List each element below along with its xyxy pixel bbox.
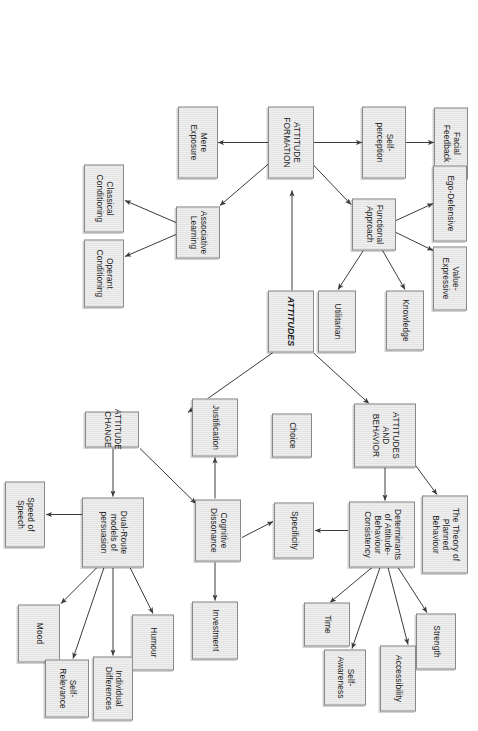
node-investment[interactable]: Investment [192, 601, 238, 659]
node-label: Utilitarian [332, 303, 342, 339]
node-label: Determinants of Attitude- Behaviour Cons… [362, 508, 402, 559]
node-value-expressive[interactable]: Value- Expressive [433, 246, 467, 310]
edge-associative-to-classical [125, 200, 176, 222]
node-determinants[interactable]: Determinants of Attitude- Behaviour Cons… [349, 501, 415, 567]
node-label: Self- Relevance [57, 668, 77, 708]
node-label: Value- Expressive [440, 257, 460, 299]
node-cognitive-dissonance[interactable]: Cognitive Dissonance [195, 499, 241, 561]
node-mood[interactable]: Mood [18, 604, 60, 662]
node-label: Accessibility [393, 655, 403, 702]
node-utilitarian[interactable]: Utilitarian [318, 290, 356, 352]
node-label: Self- perception [374, 122, 394, 162]
node-label: Ego-Defensive [445, 175, 455, 231]
edge-functional-to-utilitarian [338, 249, 364, 289]
node-label: The Theory of Planned Behaviour [430, 507, 460, 560]
edge-determinants-to-strength [398, 567, 427, 612]
node-label: Mere Exposure [188, 124, 208, 160]
node-humour[interactable]: Humour [132, 614, 174, 670]
node-justification[interactable]: Justification [192, 398, 238, 456]
node-label: ATTITUDE CHANGE [102, 408, 122, 449]
node-attitude-change[interactable]: ATTITUDE CHANGE [85, 411, 139, 447]
node-time[interactable]: Time [304, 602, 350, 646]
node-label: Humour [148, 627, 158, 657]
node-ego-defensive[interactable]: Ego-Defensive [433, 165, 467, 241]
node-attitudes[interactable]: ATTITUDES [268, 290, 314, 352]
node-functional-approach[interactable]: Functional Approach [352, 198, 396, 250]
node-self-relevance[interactable]: Self- Relevance [45, 659, 89, 717]
edge-attitudes-to-attitudes-and-behavior [313, 352, 369, 403]
node-strength[interactable]: Strength [416, 613, 456, 669]
node-dual-route[interactable]: Dual-Route models of persuasion [82, 497, 144, 567]
node-label: Functional Approach [364, 204, 384, 244]
node-self-perception[interactable]: Self- perception [362, 106, 406, 178]
node-label: Speed of Speech [15, 497, 35, 531]
node-classical-conditioning[interactable]: Classical Conditioning [84, 164, 124, 232]
edge-change-to-cognitive-dissonance [140, 448, 196, 503]
node-operant-conditioning[interactable]: Operant Conditioning [84, 239, 124, 307]
figure-page: Facial Feedback Ego-Defensive Value- Exp… [0, 0, 478, 731]
node-label: Investment [210, 609, 220, 651]
edge-dualroute-to-humour [130, 567, 153, 613]
node-theory-of-planned-behaviour[interactable]: The Theory of Planned Behaviour [422, 495, 468, 573]
node-label: Justification [210, 404, 220, 449]
edge-formation-to-associative-learning [220, 163, 269, 205]
edge-functional-to-value-expressive [396, 232, 433, 250]
node-label: ATTITUDES [286, 296, 296, 346]
node-label: Time [322, 615, 332, 634]
node-label: Choice [287, 422, 297, 449]
node-label: Operant Conditioning [94, 249, 114, 297]
node-label: Specificity [289, 511, 299, 550]
node-choice-box[interactable]: Choice [272, 413, 312, 457]
edge-dualroute-to-self-relevance [73, 567, 104, 658]
node-label: Facial Feedback [441, 124, 461, 162]
node-label: ATTITUDES AND BEHAVIOR [370, 412, 400, 459]
node-label: Cognitive Dissonance [208, 508, 228, 553]
node-label: Individual Differences [103, 666, 123, 709]
edge-layer [0, 0, 478, 731]
node-label: Self- Awareness [335, 656, 355, 698]
node-mere-exposure[interactable]: Mere Exposure [178, 106, 218, 178]
node-label: Knowledge [400, 299, 410, 341]
edge-functional-to-knowledge [382, 249, 405, 289]
edge-functional-to-ego-defensive [396, 203, 433, 220]
node-label: Dual-Route models of persuasion [98, 510, 128, 553]
edge-formation-to-functional-approach [312, 163, 351, 204]
node-individual-differences[interactable]: Individual Differences [93, 656, 133, 720]
node-label: Classical Conditioning [94, 174, 114, 222]
edge-dissonance-to-choice [242, 521, 273, 537]
concept-map-canvas: Facial Feedback Ego-Defensive Value- Exp… [0, 0, 478, 731]
node-specificity[interactable]: Specificity [274, 502, 314, 558]
node-label: ATTITUDE FORMATION [281, 117, 301, 168]
node-associative-learning[interactable]: Associative Learning [176, 206, 220, 258]
node-accessibility[interactable]: Accessibility [380, 645, 416, 711]
node-label: Strength [431, 625, 441, 657]
edge-associative-to-operant [125, 234, 176, 256]
node-attitudes-and-behavior[interactable]: ATTITUDES AND BEHAVIOR [354, 403, 416, 467]
edge-dualroute-to-mood [61, 567, 97, 603]
node-label: Mood [34, 622, 44, 643]
node-label: Associative Learning [188, 210, 208, 253]
node-attitude-formation[interactable]: ATTITUDE FORMATION [268, 106, 314, 178]
edge-determinants-to-time [330, 567, 372, 602]
node-knowledge[interactable]: Knowledge [386, 290, 424, 350]
edge-determinants-to-self-awareness [352, 567, 380, 648]
node-speed-of-speech[interactable]: Speed of Speech [5, 481, 45, 547]
node-self-awareness[interactable]: Self- Awareness [324, 649, 366, 705]
